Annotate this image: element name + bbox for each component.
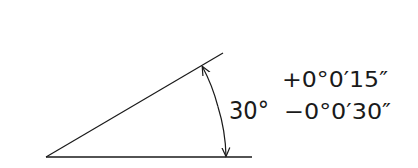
inclined-leg	[46, 53, 223, 157]
dimension-arc-lower	[218, 107, 226, 157]
dimension-arc	[202, 66, 218, 106]
upper-tolerance-label: +0°0′15″	[282, 67, 388, 92]
nominal-angle-label: 30°	[229, 97, 269, 125]
lower-tolerance-label: −0°0′30″	[284, 99, 391, 124]
angle-tolerance-diagram: 30° +0°0′15″ −0°0′30″	[0, 0, 418, 168]
